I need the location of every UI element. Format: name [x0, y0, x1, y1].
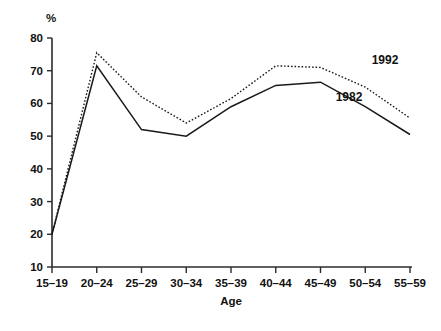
series-annotation-1982: 1982	[336, 90, 363, 104]
series-annotation-1992: 1992	[372, 53, 399, 67]
y-tick-label: 70	[30, 65, 43, 77]
x-tick-label: 20–24	[81, 277, 114, 289]
y-tick-label: 40	[30, 163, 43, 175]
line-chart: 1020304050607080 15–1920–2425–2930–3435–…	[0, 0, 441, 331]
x-axis-title: Age	[220, 295, 242, 307]
y-tick-label: 10	[30, 261, 43, 273]
x-tick-label: 40–44	[260, 277, 293, 289]
x-axis-tick-labels: 15–1920–2425–2930–3435–3940–4445–4950–54…	[36, 277, 426, 289]
x-tick-label: 50–54	[349, 277, 382, 289]
y-axis-tick-labels: 1020304050607080	[30, 32, 43, 273]
x-tick-label: 25–29	[126, 277, 158, 289]
x-tick-label: 55–59	[394, 277, 426, 289]
y-axis-unit-label: %	[46, 12, 56, 24]
y-tick-label: 80	[30, 32, 43, 44]
x-axis-ticks	[52, 267, 410, 273]
x-tick-label: 30–34	[170, 277, 203, 289]
chart-container: 1020304050607080 15–1920–2425–2930–3435–…	[0, 0, 441, 331]
x-tick-label: 15–19	[36, 277, 68, 289]
y-tick-label: 20	[30, 228, 43, 240]
x-tick-label: 35–39	[215, 277, 247, 289]
y-tick-label: 30	[30, 196, 43, 208]
series-group	[52, 53, 410, 235]
y-tick-label: 50	[30, 130, 43, 142]
x-tick-label: 45–49	[305, 277, 337, 289]
y-tick-label: 60	[30, 97, 43, 109]
series-line-1992	[52, 53, 410, 235]
